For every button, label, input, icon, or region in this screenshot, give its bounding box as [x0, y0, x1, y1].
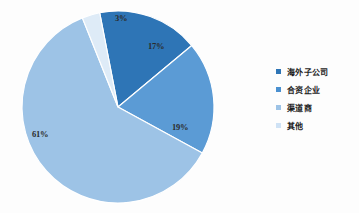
- legend-swatch-icon-1: [276, 87, 281, 92]
- legend-swatch-icon-3: [276, 123, 281, 128]
- legend-label-3: 其他: [287, 120, 304, 131]
- legend-swatch-icon-2: [276, 105, 281, 110]
- slice-value-label-2: 61%: [32, 129, 48, 139]
- chart-legend: 海外子公司 合资企业 渠道商 其他: [276, 62, 356, 134]
- legend-item-0[interactable]: 海外子公司: [276, 62, 356, 80]
- slice-value-label-3: 3%: [115, 13, 127, 23]
- slice-value-label-1: 19%: [172, 122, 188, 132]
- legend-label-0: 海外子公司: [287, 66, 329, 77]
- pie-slices-group: [22, 11, 214, 203]
- legend-label-1: 合资企业: [287, 84, 320, 95]
- slice-value-label-0: 17%: [148, 41, 164, 51]
- pie-svg: [0, 0, 240, 213]
- legend-item-1[interactable]: 合资企业: [276, 80, 356, 98]
- legend-label-2: 渠道商: [287, 102, 312, 113]
- pie-chart-figure: 17%19%61%3% 海外子公司 合资企业 渠道商 其他: [0, 0, 359, 213]
- legend-item-2[interactable]: 渠道商: [276, 98, 356, 116]
- legend-swatch-icon-0: [276, 69, 281, 74]
- pie-plot-area: 17%19%61%3%: [0, 0, 240, 213]
- legend-item-3[interactable]: 其他: [276, 116, 356, 134]
